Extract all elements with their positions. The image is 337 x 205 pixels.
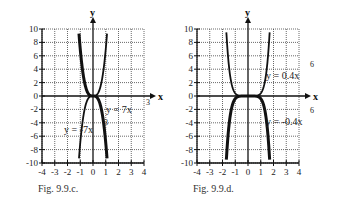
y-tick-label: 6 (189, 51, 194, 61)
y-tick-label: 8 (189, 37, 194, 47)
x-tick-label: 2 (271, 167, 276, 177)
y-tick-label: 2 (34, 78, 39, 88)
y-tick-label: -6 (31, 131, 39, 141)
y-tick-label: -6 (186, 131, 194, 141)
y-tick-label: -10 (181, 158, 193, 168)
x-tick-label: -1 (77, 167, 85, 177)
y-tick-label: -4 (186, 118, 194, 128)
y-tick-label: -2 (186, 104, 194, 114)
x-tick-label: 4 (142, 167, 147, 177)
y-axis-label: y (245, 7, 250, 18)
x-tick-label: 0 (246, 167, 251, 177)
x-tick-label: -4 (38, 167, 46, 177)
y-tick-label: -10 (26, 158, 38, 168)
x-tick-label: 1 (104, 167, 109, 177)
series-annotation-1: y = 7x (106, 104, 132, 115)
series-annotation-2: y = -0.4x (266, 116, 302, 127)
series-annotation-1: y = 0.4x (266, 70, 299, 81)
x-tick-label: 1 (259, 167, 264, 177)
series-annotation-2: y = -7x (64, 124, 93, 135)
series-annotation-exponent-2: 6 (310, 106, 314, 115)
x-tick-label: -1 (232, 167, 240, 177)
y-tick-label: -8 (186, 145, 194, 155)
plot-fig-9-9-c: xy-4-3-2-101234-10-8-6-4-20246810y = 7x3… (26, 7, 163, 194)
x-axis-arrow-icon (150, 93, 156, 99)
x-axis-arrow-icon (305, 93, 311, 99)
figure-canvas: xy-4-3-2-101234-10-8-6-4-20246810y = 7x3… (0, 0, 337, 205)
x-tick-label: -2 (64, 167, 72, 177)
y-tick-label: 6 (34, 51, 39, 61)
x-tick-label: 3 (129, 167, 134, 177)
y-tick-label: 10 (184, 24, 194, 34)
y-tick-label: 10 (29, 24, 39, 34)
series-annotation-exponent-1: 3 (146, 98, 150, 107)
y-tick-label: 4 (34, 64, 39, 74)
plot-fig-9-9-d: xy-4-3-2-101234-10-8-6-4-20246810y = 0.4… (181, 7, 318, 194)
x-tick-label: 4 (297, 167, 302, 177)
y-tick-label: 0 (34, 91, 39, 101)
figure-caption: Fig. 9.9.d. (193, 183, 234, 194)
x-tick-label: -2 (219, 167, 227, 177)
figure-caption: Fig. 9.9.c. (38, 183, 78, 194)
x-tick-label: -4 (193, 167, 201, 177)
y-tick-label: 2 (189, 78, 194, 88)
series-annotation-exponent-1: 6 (310, 60, 314, 69)
y-tick-label: 4 (189, 64, 194, 74)
x-axis-label: x (313, 91, 318, 102)
x-tick-label: 2 (116, 167, 121, 177)
y-axis-label: y (90, 7, 95, 18)
x-axis-label: x (158, 91, 163, 102)
series-annotation-exponent-2: 3 (104, 118, 108, 127)
x-tick-label: -3 (51, 167, 59, 177)
x-tick-label: 3 (284, 167, 289, 177)
x-tick-label: 0 (91, 167, 96, 177)
y-tick-label: -4 (31, 118, 39, 128)
y-tick-label: 0 (189, 91, 194, 101)
y-tick-label: -2 (31, 104, 39, 114)
x-tick-label: -3 (206, 167, 214, 177)
y-tick-label: 8 (34, 37, 39, 47)
y-tick-label: -8 (31, 145, 39, 155)
